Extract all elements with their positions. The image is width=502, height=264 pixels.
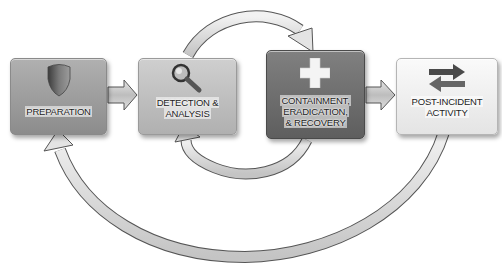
cross-icon (300, 58, 330, 88)
swap-arrows-icon (427, 64, 467, 92)
straight-arrow-prep-to-detection (108, 80, 137, 110)
phase-label-containment: CONTAINMENT, ERADICATION, & RECOVERY (267, 95, 364, 128)
incident-response-lifecycle-diagram: PREPARATION DETECTION & ANALYSIS CONTAIN… (0, 0, 502, 264)
phase-label-detection: DETECTION & ANALYSIS (139, 97, 236, 119)
shield-icon (46, 63, 72, 97)
magnifier-icon (169, 62, 203, 94)
phase-label-preparation: PREPARATION (11, 106, 106, 117)
phase-box-post-incident: POST-INCIDENT ACTIVITY (396, 58, 498, 135)
bottom-arc-arrow (44, 130, 444, 257)
phase-box-detection: DETECTION & ANALYSIS (138, 58, 237, 135)
straight-arrow-containment-to-post (366, 80, 395, 110)
phase-label-post-incident: POST-INCIDENT ACTIVITY (397, 96, 497, 118)
phase-box-preparation: PREPARATION (10, 58, 107, 135)
phase-box-containment: CONTAINMENT, ERADICATION, & RECOVERY (266, 50, 365, 139)
